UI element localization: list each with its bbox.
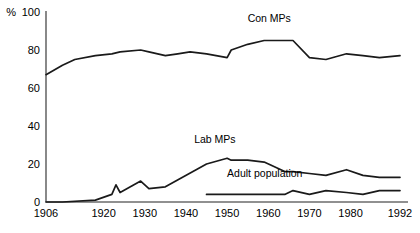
x-tick-label-1950: 1950 — [215, 207, 239, 219]
y-tick-label-60: 60 — [28, 82, 40, 94]
x-tick-label-1920: 1920 — [91, 207, 115, 219]
x-tick-label-1930: 1930 — [133, 207, 157, 219]
x-tick-label-1960: 1960 — [256, 207, 280, 219]
series-line-con-mps — [46, 41, 400, 75]
series-labels: Con MPsLab MPsAdult population — [194, 12, 302, 180]
x-tick-label-1970: 1970 — [297, 207, 321, 219]
series-line-adult-population — [207, 191, 400, 195]
x-tick-label-1906: 1906 — [34, 207, 58, 219]
y-tick-label-80: 80 — [28, 44, 40, 56]
series-line-lab-mps — [46, 158, 400, 202]
x-tick-label-1980: 1980 — [338, 207, 362, 219]
x-axis: 190619201930194019501960197019801992 — [34, 202, 412, 219]
percent-axis-label: % — [6, 6, 16, 18]
series-label-con-mps: Con MPs — [248, 12, 291, 24]
y-axis: 020406080100% — [6, 6, 46, 208]
x-tick-label-1940: 1940 — [174, 207, 198, 219]
y-tick-label-40: 40 — [28, 120, 40, 132]
y-tick-label-100: 100 — [22, 6, 40, 18]
line-chart: 020406080100% 19061920193019401950196019… — [0, 0, 420, 233]
chart-container: 020406080100% 19061920193019401950196019… — [0, 0, 420, 233]
series-label-adult-population: Adult population — [227, 167, 302, 179]
series-lines — [46, 41, 400, 203]
series-label-lab-mps: Lab MPs — [194, 133, 235, 145]
y-tick-label-20: 20 — [28, 158, 40, 170]
x-tick-label-1992: 1992 — [388, 207, 412, 219]
